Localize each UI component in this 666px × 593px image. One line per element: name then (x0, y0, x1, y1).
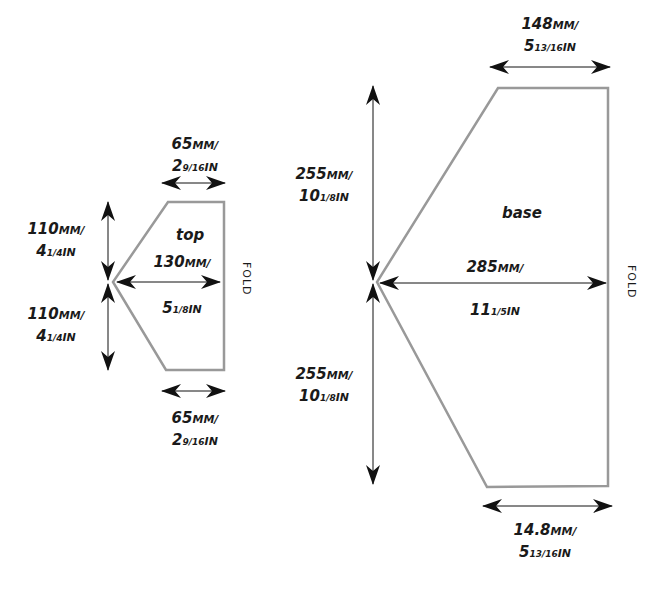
mm-unit: MM/ (327, 169, 353, 182)
in-whole: 5 (524, 37, 534, 55)
top-lower-height-label: 110MM/ 41/4IN (16, 304, 96, 348)
top-piece-name: top (176, 226, 204, 244)
mm-unit: MM/ (553, 19, 579, 32)
mm-value: 65 (172, 409, 193, 427)
mm-unit: MM/ (498, 262, 524, 275)
in-frac: 1/4 (47, 333, 63, 343)
base-top-width-label: 148MM/ 513/16IN (505, 14, 595, 58)
in-unit: IN (205, 161, 218, 174)
in-frac: 1/8 (320, 193, 336, 203)
in-unit: IN (188, 303, 201, 316)
in-whole: 10 (299, 187, 320, 205)
top-bottom-width-label: 65MM/ 29/16IN (155, 408, 235, 452)
in-frac: 13/16 (534, 43, 562, 53)
base-fold-label: FOLD (625, 265, 638, 299)
in-unit: IN (336, 391, 349, 404)
mm-unit: MM/ (185, 257, 211, 270)
mm-unit: MM/ (327, 369, 353, 382)
mm-unit: MM/ (192, 413, 218, 426)
mm-value: 14.8 (514, 521, 551, 539)
in-whole: 2 (172, 431, 182, 449)
mm-value: 255 (295, 365, 326, 383)
mm-unit: MM/ (551, 525, 577, 538)
top-fold-label: FOLD (240, 262, 253, 296)
top-length-mm-label: 130MM/ (132, 252, 232, 274)
in-whole: 5 (162, 299, 172, 317)
in-whole: 4 (36, 242, 46, 260)
base-length-in-label: 111/5IN (465, 300, 525, 322)
base-length-mm-label: 285MM/ (445, 257, 545, 279)
base-bottom-width-label: 14.8MM/ 513/16IN (500, 520, 590, 564)
top-piece-outline (113, 202, 224, 370)
in-unit: IN (205, 435, 218, 448)
top-length-in-label: 51/8IN (152, 298, 212, 320)
in-frac: 1/8 (320, 393, 336, 403)
in-whole: 5 (519, 543, 529, 561)
diagram-graphics (0, 0, 666, 593)
in-frac: 1/8 (173, 305, 189, 315)
in-frac: 1/4 (47, 248, 63, 258)
mm-unit: MM/ (59, 309, 85, 322)
mm-unit: MM/ (192, 139, 218, 152)
in-whole: 4 (36, 327, 46, 345)
in-unit: IN (62, 246, 75, 259)
in-unit: IN (558, 547, 571, 560)
in-whole: 10 (299, 387, 320, 405)
in-frac: 9/16 (183, 163, 205, 173)
in-whole: 2 (172, 157, 182, 175)
base-piece-name: base (502, 204, 542, 222)
mm-value: 255 (295, 165, 326, 183)
mm-unit: MM/ (59, 224, 85, 237)
in-frac: 9/16 (183, 437, 205, 447)
in-frac: 13/16 (529, 549, 557, 559)
base-upper-height-label: 255MM/ 101/8IN (284, 164, 364, 208)
in-whole: 11 (470, 301, 491, 319)
in-unit: IN (62, 331, 75, 344)
in-unit: IN (563, 41, 576, 54)
top-top-width-label: 65MM/ 29/16IN (155, 134, 235, 178)
mm-value: 148 (521, 15, 552, 33)
top-upper-height-label: 110MM/ 41/4IN (16, 219, 96, 263)
in-frac: 1/5 (491, 307, 507, 317)
base-piece-outline (377, 88, 608, 487)
pattern-diagram: 65MM/ 29/16IN 110MM/ 41/4IN top 130MM/ 5… (0, 0, 666, 593)
mm-value: 65 (172, 135, 193, 153)
in-unit: IN (507, 305, 520, 318)
mm-value: 130 (153, 253, 184, 271)
in-unit: IN (336, 191, 349, 204)
mm-value: 110 (27, 305, 58, 323)
mm-value: 285 (466, 258, 497, 276)
mm-value: 110 (27, 220, 58, 238)
base-lower-height-label: 255MM/ 101/8IN (284, 364, 364, 408)
